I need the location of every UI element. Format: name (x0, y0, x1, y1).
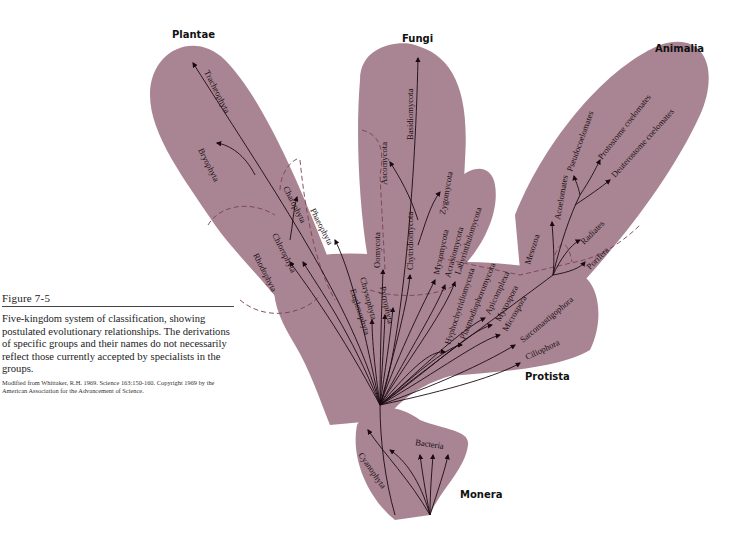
kingdom-label-plantae: Plantae (172, 29, 215, 40)
taxon-oomycota: Oomycota (372, 232, 382, 268)
five-kingdom-diagram: Plantae Fungi Animalia Protista Monera T… (0, 0, 738, 536)
taxon-chytridiomycota: Chytridiomycota (405, 212, 415, 270)
kingdom-label-protista: Protista (525, 371, 570, 382)
kingdom-label-monera: Monera (460, 489, 502, 500)
kingdom-label-fungi: Fungi (402, 33, 433, 44)
taxon-ascomycota: Ascomycota (379, 142, 389, 185)
taxon-basidiomycota: Basidiomycota (405, 88, 415, 140)
protista-region (274, 253, 599, 425)
kingdom-label-animalia: Animalia (655, 43, 704, 54)
